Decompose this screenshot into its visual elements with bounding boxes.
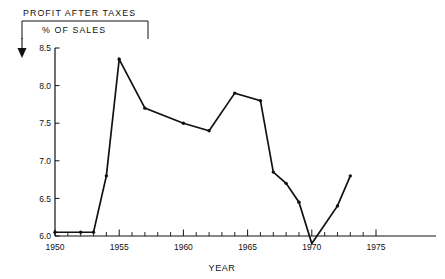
data-point-marker: [272, 170, 275, 173]
data-point-marker: [118, 58, 121, 61]
y-tick-label: 6.0: [39, 231, 51, 241]
profit-after-taxes-chart: PROFIT AFTER TAXES % OF SALES 6.06.57.07…: [0, 0, 445, 279]
data-point-marker: [79, 231, 82, 234]
data-point-marker: [207, 129, 210, 132]
x-tick-label: 1975: [367, 242, 386, 252]
data-point-marker: [182, 122, 185, 125]
data-point-marker: [92, 231, 95, 234]
x-tick-label: 1950: [46, 242, 65, 252]
data-point-marker: [259, 99, 262, 102]
chart-title-block: PROFIT AFTER TAXES % OF SALES: [22, 8, 148, 39]
y-tick-label: 8.0: [39, 81, 51, 91]
y-tick-label: 7.5: [39, 118, 51, 128]
x-tick-label: 1965: [238, 242, 257, 252]
data-point-marker: [297, 200, 300, 203]
x-axis-title: YEAR: [209, 263, 236, 273]
x-tick-label: 1955: [110, 242, 129, 252]
data-point-marker: [143, 106, 146, 109]
y-tick-label: 6.5: [39, 194, 51, 204]
plot-layer: 6.06.57.07.58.08.51950195519601965197019…: [39, 43, 436, 252]
chart-subtitle: % OF SALES: [42, 25, 106, 35]
data-point-marker: [284, 182, 287, 185]
data-point-marker: [349, 174, 352, 177]
down-arrow-icon: [18, 38, 27, 58]
x-tick-label: 1960: [174, 242, 193, 252]
data-point-marker: [336, 204, 339, 207]
data-point-marker: [53, 231, 56, 234]
chart-title: PROFIT AFTER TAXES: [23, 8, 136, 18]
chart-canvas: PROFIT AFTER TAXES % OF SALES 6.06.57.07…: [0, 0, 445, 279]
data-point-marker: [233, 91, 236, 94]
y-tick-label: 7.0: [39, 156, 51, 166]
series-line: [55, 59, 350, 243]
data-point-marker: [105, 174, 108, 177]
y-tick-label: 8.5: [39, 43, 51, 53]
